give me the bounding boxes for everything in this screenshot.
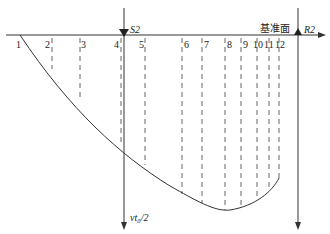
station-label-10: 10 bbox=[253, 39, 263, 50]
station-label-11: 11 bbox=[264, 39, 274, 50]
station-label-1: 1 bbox=[16, 39, 21, 50]
s2-down-arrow-icon bbox=[121, 222, 127, 230]
r2-receiver-triangle-icon bbox=[294, 28, 302, 35]
station-label-8: 8 bbox=[227, 39, 232, 50]
station-label-3: 3 bbox=[81, 39, 86, 50]
reflection-curve bbox=[20, 35, 279, 210]
r2-label: R2 bbox=[303, 24, 315, 35]
station-labels: 1 2 3 4 5 6 7 8 9 10 11 12 bbox=[16, 39, 285, 50]
station-dashed-lines bbox=[52, 38, 279, 210]
station-label-2: 2 bbox=[45, 39, 50, 50]
station-label-7: 7 bbox=[204, 39, 209, 50]
reflection-diagram: S2 R2 基准面 vt₀/2 1 2 3 4 5 6 7 8 9 10 11 … bbox=[0, 0, 330, 234]
r2-down-arrow-icon bbox=[295, 222, 301, 230]
station-label-9: 9 bbox=[243, 39, 248, 50]
vertical-axis-label: vt₀/2 bbox=[130, 212, 148, 223]
diagram-svg: S2 R2 基准面 vt₀/2 1 2 3 4 5 6 7 8 9 10 11 … bbox=[0, 0, 330, 234]
station-label-12: 12 bbox=[275, 39, 285, 50]
station-label-5: 5 bbox=[139, 39, 144, 50]
station-label-4: 4 bbox=[114, 39, 119, 50]
s2-source-triangle-icon bbox=[119, 29, 129, 37]
s2-label: S2 bbox=[130, 24, 140, 35]
baseline-arrow-icon bbox=[318, 32, 326, 38]
baseline-label: 基准面 bbox=[260, 22, 290, 34]
station-label-6: 6 bbox=[184, 39, 189, 50]
